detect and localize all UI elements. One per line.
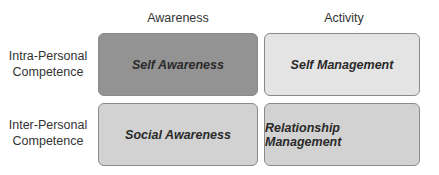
cell-label: Self Awareness: [132, 58, 224, 72]
cell-label: Social Awareness: [125, 128, 231, 142]
cell-label: Self Management: [291, 58, 394, 72]
cell-self-awareness: Self Awareness: [98, 33, 258, 96]
row-header-line: Competence: [0, 133, 96, 149]
cell-relationship-management: Relationship Management: [264, 103, 420, 166]
column-header-activity: Activity: [264, 11, 424, 25]
cell-self-management: Self Management: [264, 33, 420, 96]
row-header-line: Competence: [0, 64, 96, 80]
row-header-inter-personal: Inter-Personal Competence: [0, 117, 96, 149]
row-header-line: Intra-Personal: [0, 48, 96, 64]
row-header-line: Inter-Personal: [0, 117, 96, 133]
row-header-intra-personal: Intra-Personal Competence: [0, 48, 96, 80]
column-header-awareness: Awareness: [98, 11, 258, 25]
cell-label: Relationship Management: [265, 121, 419, 149]
cell-social-awareness: Social Awareness: [98, 103, 258, 166]
